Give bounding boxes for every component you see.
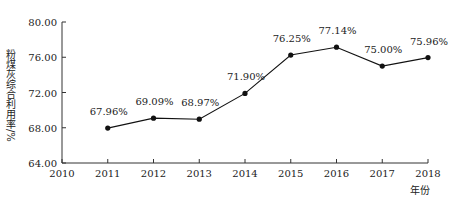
data-label: 75.00% [364,44,402,55]
data-point-marker [425,55,430,60]
x-tick-label: 2018 [415,168,440,179]
line-chart: 64.0068.0072.0076.0080.00201020112012201… [0,0,460,204]
x-tick-label: 2011 [95,168,120,179]
data-line [108,47,428,128]
data-point-marker [151,116,156,121]
y-tick-label: 76.00 [28,52,57,63]
data-point-marker [288,52,293,57]
x-tick-label: 2016 [324,168,349,179]
data-label: 75.96% [410,36,448,47]
x-tick-label: 2010 [49,168,74,179]
data-label: 67.96% [90,106,128,117]
series-line: 67.96%69.09%68.97%71.90%76.25%77.14%75.0… [90,25,448,130]
y-tick-label: 68.00 [28,123,57,134]
x-tick-label: 2015 [278,168,303,179]
axes: 64.0068.0072.0076.0080.00201020112012201… [28,17,440,179]
data-point-marker [242,91,247,96]
data-point-marker [380,63,385,68]
data-point-marker [334,45,339,50]
y-tick-label: 80.00 [28,17,57,28]
data-label: 69.09% [135,96,173,107]
data-label: 76.25% [273,33,311,44]
y-tick-label: 72.00 [28,88,57,99]
x-tick-label: 2013 [187,168,212,179]
x-tick-label: 2012 [141,168,166,179]
data-label: 68.97% [181,97,219,108]
data-label: 77.14% [318,25,356,36]
data-label: 71.90% [227,71,265,82]
x-tick-label: 2014 [232,168,257,179]
data-point-marker [197,117,202,122]
data-point-marker [105,126,110,131]
x-tick-label: 2017 [370,168,395,179]
